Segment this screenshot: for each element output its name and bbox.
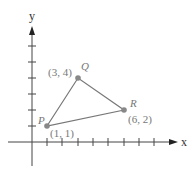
y-axis-arrow-icon bbox=[29, 26, 35, 35]
point-p bbox=[44, 123, 50, 129]
point-p-name: P bbox=[37, 114, 45, 126]
point-r-name: R bbox=[129, 97, 137, 109]
point-q-name: Q bbox=[81, 60, 89, 72]
axes: x y bbox=[8, 9, 187, 166]
y-axis-label: y bbox=[29, 9, 35, 23]
x-axis-arrow-icon bbox=[169, 139, 178, 145]
point-r bbox=[121, 107, 127, 113]
point-p-coords: (1, 1) bbox=[50, 127, 74, 140]
point-q bbox=[75, 75, 81, 81]
triangle-pqr bbox=[47, 78, 124, 126]
x-axis-label: x bbox=[181, 135, 187, 149]
point-r-coords: (6, 2) bbox=[128, 113, 152, 126]
coordinate-diagram: x y P (1, 1) Q (3, 4) R (6, 2) bbox=[0, 0, 196, 173]
point-q-coords: (3, 4) bbox=[48, 66, 72, 79]
